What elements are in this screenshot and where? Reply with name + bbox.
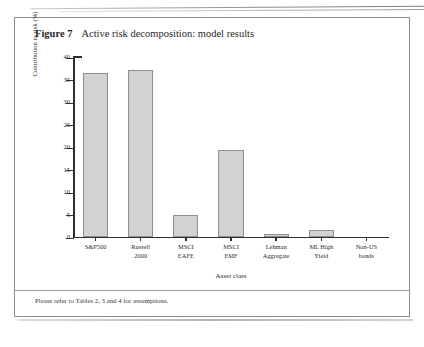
x-tick-mark [275,237,277,241]
y-tick-label: 35 [64,76,71,83]
x-category-label: S&P500 [73,243,118,252]
y-tick-label: 30 [64,98,71,105]
x-category-label-line: EAFE [163,252,208,261]
x-category-label: Non-USbonds [344,243,389,260]
figure-title: Figure 7Active risk decomposition: model… [35,28,254,39]
page-scan-header [0,0,424,14]
x-category-label: Russell2000 [118,243,163,260]
x-category-label: MSCIEMF [208,243,253,260]
x-tick-mark [185,237,187,241]
x-category-label-line: EMF [208,252,253,261]
figure-footer-note: Please refer to Tables 2, 3 and 4 for as… [35,297,168,304]
y-axis-title: Contribution to risk (%) [31,0,38,104]
y-tick-label: 10 [64,188,71,195]
y-tick-label: 40 [64,53,71,60]
x-category-label-line: Non-US [344,243,389,252]
x-axis-title: Asset class [73,272,389,280]
x-category-label-line: bonds [344,252,389,261]
y-tick-label: 0 [67,233,70,240]
figure-box-shadow [17,319,413,321]
x-category-label: LehmanAggregate [254,243,299,260]
bar [128,70,153,237]
bar-series [73,57,389,237]
x-category-label-line: Russell [118,243,163,252]
bar [83,73,108,237]
footer-divider [15,290,409,291]
y-tick-label: 15 [64,166,71,173]
y-tick-label: 20 [64,143,71,150]
scan-rule-line-secondary [60,9,424,12]
x-category-label-line: Yield [299,252,344,261]
y-tick-label: 5 [67,211,70,218]
x-tick-mark [140,237,142,241]
x-category-label-line: 2000 [118,252,163,261]
x-category-label-line: Lehman [254,243,299,252]
x-category-label-line: MSCI [163,243,208,252]
figure-number: Figure 7 [35,28,72,39]
y-tick-label: 25 [64,121,71,128]
x-axis-category-labels: S&P500Russell2000MSCIEAFEMSCIEMFLehmanAg… [73,243,389,271]
x-category-label: ML HighYield [299,243,344,260]
x-tick-mark [230,237,232,241]
bar [173,215,198,236]
chart-axes: 0510152025303540 [73,56,389,238]
bar [218,150,243,237]
figure-container: Figure 7Active risk decomposition: model… [14,17,410,317]
chart-plot-area: Contribution to risk (%) 051015202530354… [15,48,411,276]
x-category-label-line: S&P500 [73,243,118,252]
x-category-label-line: Aggregate [254,252,299,261]
x-tick-mark [366,237,368,241]
x-tick-mark [321,237,323,241]
figure-caption: Active risk decomposition: model results [81,28,254,39]
x-category-label-line: ML High [299,243,344,252]
x-tick-mark [95,237,97,241]
x-category-label: MSCIEAFE [163,243,208,260]
x-category-label-line: MSCI [208,243,253,252]
